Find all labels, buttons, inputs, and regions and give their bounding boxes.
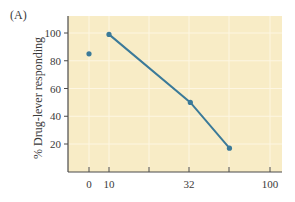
x-tick-label: 100 bbox=[262, 178, 279, 190]
y-tick-label: 60 bbox=[50, 83, 62, 95]
y-axis-ticks: 20406080100 bbox=[45, 27, 69, 150]
y-tick-label: 80 bbox=[50, 55, 62, 67]
plot-area bbox=[68, 16, 282, 172]
x-tick-label: 0 bbox=[86, 178, 92, 190]
data-point-marker bbox=[86, 51, 91, 56]
data-point-marker bbox=[188, 100, 193, 105]
chart: 20406080100 01032100 bbox=[0, 0, 295, 202]
x-tick-label: 10 bbox=[104, 178, 116, 190]
y-tick-label: 20 bbox=[50, 138, 62, 150]
y-tick-label: 40 bbox=[50, 110, 62, 122]
x-tick-label: 32 bbox=[184, 178, 195, 190]
y-tick-label: 100 bbox=[45, 27, 62, 39]
data-point-marker bbox=[106, 32, 111, 37]
data-point-marker bbox=[227, 146, 232, 151]
